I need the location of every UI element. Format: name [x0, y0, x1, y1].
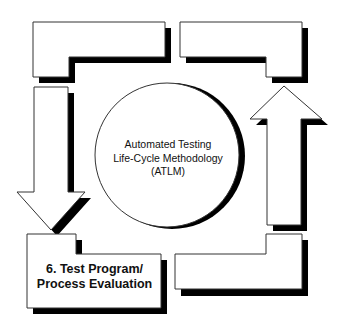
stage-6-label-line-1: 6. Test Program/	[28, 262, 161, 277]
stage-6-label-line-2: Process Evaluation	[28, 277, 161, 292]
stage-box-top-right	[180, 22, 308, 83]
up-arrow	[250, 86, 328, 231]
stage-box-top-left	[33, 22, 171, 83]
center-label: Automated Testing Life-Cycle Methodology…	[96, 138, 240, 179]
center-label-line-1: Automated Testing	[96, 138, 240, 152]
stage-6-label: 6. Test Program/ Process Evaluation	[28, 262, 161, 292]
down-arrow	[17, 87, 91, 236]
stage-box-bottom-right	[175, 234, 308, 296]
center-label-line-2: Life-Cycle Methodology	[96, 152, 240, 166]
center-label-line-3: (ATLM)	[96, 165, 240, 179]
